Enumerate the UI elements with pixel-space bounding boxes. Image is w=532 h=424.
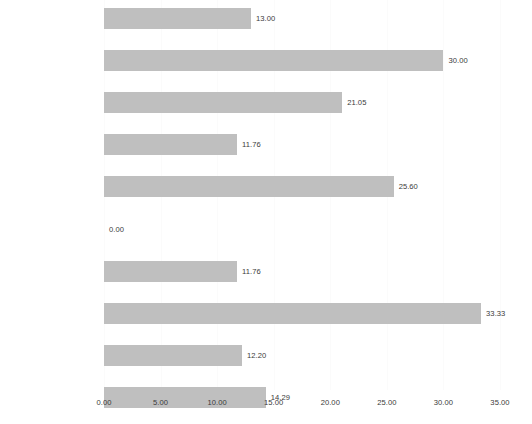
bar-row: KV Vorstände12.20 xyxy=(104,335,500,377)
x-axis-tick-label: 30.00 xyxy=(434,398,453,407)
x-axis-tick-label: 20.00 xyxy=(321,398,340,407)
bar xyxy=(104,345,242,366)
bar-value-label: 25.60 xyxy=(399,182,418,191)
bar xyxy=(104,176,394,197)
bar-row: Kammer-Präsidentinnen11.76 xyxy=(104,124,500,166)
x-axis-tick-label: 15.00 xyxy=(264,398,283,407)
x-axis-tick-label: 0.00 xyxy=(97,398,112,407)
x-axis-tick-label: 25.00 xyxy=(377,398,396,407)
x-axis-tick-label: 10.00 xyxy=(208,398,227,407)
x-axis-tick-label: 5.00 xyxy=(153,398,168,407)
bar xyxy=(104,134,237,155)
bar-value-label: 0.00 xyxy=(109,225,124,234)
bar-rows: Lehrstühle*13.00Oberärztliche Stellen*30… xyxy=(104,0,500,390)
bar xyxy=(104,92,342,113)
bar-value-label: 30.00 xyxy=(448,56,467,65)
bar-row: Vorstand BÄK21.05 xyxy=(104,81,500,123)
x-axis: 0.005.0010.0015.0020.0025.0030.0035.00 xyxy=(104,390,500,424)
bar-value-label: 13.00 xyxy=(256,14,275,23)
bar-value-label: 12.20 xyxy=(247,351,266,360)
bar xyxy=(104,50,443,71)
gridline xyxy=(500,0,501,390)
bar-row: Vorstand KBV0.00 xyxy=(104,208,500,250)
bar-row: Kammer-Vorstände25.60 xyxy=(104,166,500,208)
bar xyxy=(104,8,251,29)
bar-row: KV Vertreterversammlungen33.33 xyxy=(104,292,500,334)
bar xyxy=(104,261,237,282)
bar-value-label: 21.05 xyxy=(347,98,366,107)
bar xyxy=(104,303,481,324)
bar-value-label: 11.76 xyxy=(242,267,261,276)
bar-chart: Lehrstühle*13.00Oberärztliche Stellen*30… xyxy=(0,0,532,424)
plot-area: Lehrstühle*13.00Oberärztliche Stellen*30… xyxy=(104,0,500,390)
bar-row: Lehrstühle*13.00 xyxy=(104,0,500,39)
bar-row: KV-Vorsitz11.76 xyxy=(104,250,500,292)
bar-value-label: 11.76 xyxy=(242,140,261,149)
x-axis-tick-label: 35.00 xyxy=(490,398,509,407)
bar-row: Oberärztliche Stellen*30.00 xyxy=(104,39,500,81)
bar-value-label: 33.33 xyxy=(486,309,505,318)
